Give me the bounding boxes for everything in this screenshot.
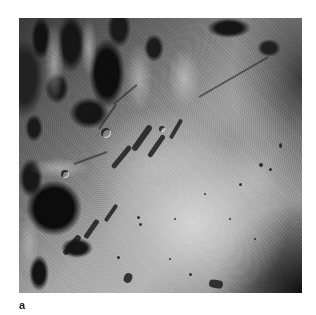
panel-label: a xyxy=(19,299,25,311)
grain-texture xyxy=(19,18,302,293)
figure-panel: a xyxy=(0,0,316,315)
lunar-surface-photo xyxy=(19,18,302,293)
